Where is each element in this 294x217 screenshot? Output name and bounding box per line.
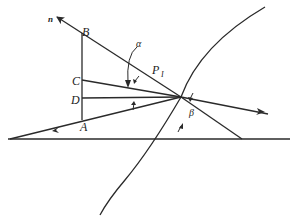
line-DP [82,97,181,98]
label-n: n [48,14,53,24]
angle-tick-near-B-line [135,76,139,81]
label-C: C [72,74,81,88]
label-P-subscript: I [160,70,164,79]
alpha-pointer-arrowhead-icon [125,80,131,88]
angle-tick-beta-arrow-icon [179,123,183,129]
label-D: D [70,93,80,107]
label-B: B [82,25,90,39]
angle-tick-incident-arrow-icon [131,101,136,105]
label-A: A [79,120,88,134]
incident-ray [10,97,181,139]
line-CP [82,80,181,97]
label-alpha: α [136,38,142,49]
diagram-canvas: n B α C D A P I β [0,0,294,217]
label-beta: β [188,107,194,118]
label-P: P [151,63,160,77]
